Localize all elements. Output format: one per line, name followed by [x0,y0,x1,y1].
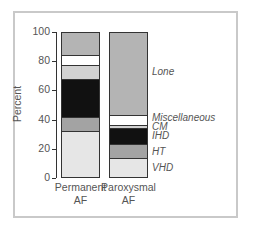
segment-ht [110,144,147,158]
legend-label-vhd: VHD [152,163,173,173]
bar-permanent-af [61,32,100,178]
y-tick-label: 100 [20,26,50,37]
y-tick-label: 0 [20,172,50,183]
segment-ihd [62,79,99,116]
y-tick-label: 60 [20,84,50,95]
segment-lone [110,33,147,115]
x-tick-label-line: AF [97,194,161,207]
segment-cm [62,65,99,79]
segment-ht [62,117,99,131]
x-tick-label-line: Paroxysmal [97,181,161,194]
y-tick-label: 40 [20,114,50,125]
legend-label-ht: HT [152,147,165,157]
y-tick-label: 20 [20,143,50,154]
bar-paroxysmal-af [109,32,148,178]
y-tick-mark [52,178,56,179]
segment-vhd [62,131,99,177]
y-axis-line [56,32,57,178]
x-tick-label: ParoxysmalAF [97,181,161,207]
segment-miscellaneous [110,115,147,125]
segment-vhd [110,158,147,177]
y-tick-label: 80 [20,55,50,66]
segment-ihd [110,128,147,144]
legend-label-miscellaneous: Miscellaneous [152,113,215,123]
legend-label-ihd: IHD [152,131,169,141]
segment-miscellaneous [62,55,99,65]
legend-label-lone: Lone [152,67,174,77]
legend-label-cm: CM [152,122,168,132]
segment-lone [62,33,99,55]
